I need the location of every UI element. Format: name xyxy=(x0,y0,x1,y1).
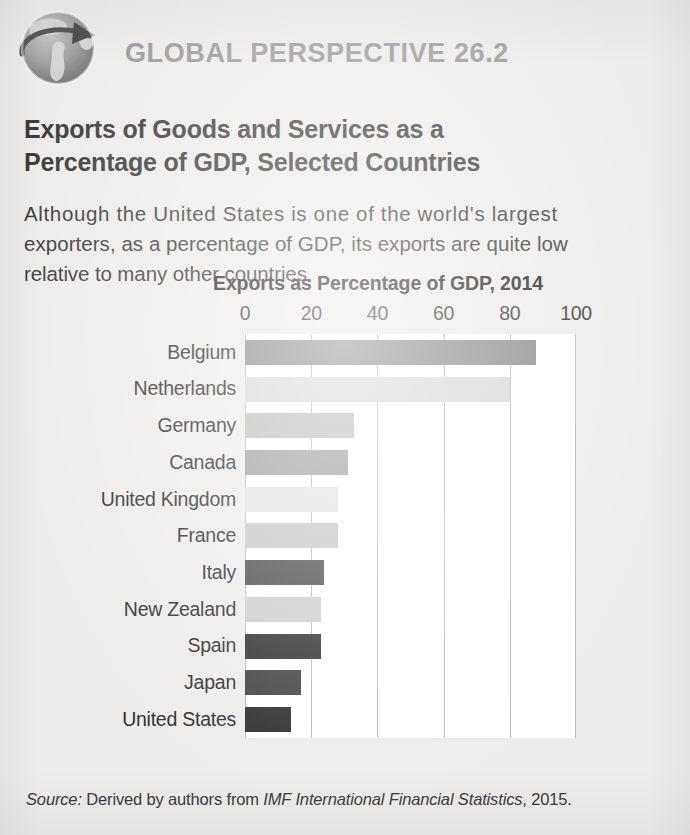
bar-canada xyxy=(245,450,348,475)
bar-label-united-states: United States xyxy=(122,710,236,730)
source-text-after: , 2015. xyxy=(522,790,571,808)
x-tick-80: 80 xyxy=(499,302,520,325)
chart-row: United Kingdom xyxy=(245,481,576,518)
bar-france xyxy=(245,523,338,548)
bar-label-new-zealand: New Zealand xyxy=(124,600,236,620)
x-tick-60: 60 xyxy=(433,302,454,325)
bar-label-spain: Spain xyxy=(187,636,236,656)
bar-japan xyxy=(245,670,301,695)
source-note: Source: Derived by authors from IMF Inte… xyxy=(26,790,666,809)
chart-row: New Zealand xyxy=(245,591,576,628)
chart-row: Netherlands xyxy=(245,371,576,408)
chart-title: Exports as Percentage of GDP, 2014 xyxy=(0,272,690,295)
figure-header: GLOBAL PERSPECTIVE 26.2 xyxy=(0,0,690,92)
bar-label-japan: Japan xyxy=(184,673,236,693)
chart-row: Canada xyxy=(245,444,576,481)
page-title: Exports of Goods and Services as a Perce… xyxy=(24,113,664,180)
intro-line-2: exporters, as a percentage of GDP, its e… xyxy=(24,229,660,259)
chart-row: France xyxy=(245,518,576,555)
bar-label-france: France xyxy=(177,526,236,546)
bar-label-belgium: Belgium xyxy=(167,343,236,363)
bar-germany xyxy=(245,413,354,438)
bar-label-italy: Italy xyxy=(201,563,236,583)
x-tick-0: 0 xyxy=(240,302,251,325)
x-tick-40: 40 xyxy=(367,302,388,325)
global-perspective-figure: GLOBAL PERSPECTIVE 26.2 Exports of Goods… xyxy=(0,0,690,835)
bar-spain xyxy=(245,634,321,659)
bar-united-kingdom xyxy=(245,487,338,512)
intro-line-1: Although the United States is one of the… xyxy=(24,199,660,229)
page-title-line2: Percentage of GDP, Selected Countries xyxy=(24,146,664,179)
chart-row: United States xyxy=(245,701,576,738)
bar-belgium xyxy=(245,340,536,365)
chart-row: Japan xyxy=(245,665,576,702)
chart-row: Germany xyxy=(245,407,576,444)
x-tick-100: 100 xyxy=(560,302,592,325)
chart-row: Belgium xyxy=(245,334,576,371)
source-text-before: Derived by authors from xyxy=(82,790,264,808)
chart-row: Spain xyxy=(245,628,576,665)
chart-row: Italy xyxy=(245,554,576,591)
bar-new-zealand xyxy=(245,597,321,622)
bar-label-netherlands: Netherlands xyxy=(134,379,236,399)
source-label: Source: xyxy=(26,790,82,808)
x-axis-ticks: 020406080100 xyxy=(245,302,576,328)
chart-bars: BelgiumNetherlandsGermanyCanadaUnited Ki… xyxy=(245,334,576,738)
bar-label-canada: Canada xyxy=(169,453,236,473)
bar-label-united-kingdom: United Kingdom xyxy=(101,490,236,510)
globe-icon xyxy=(12,4,104,96)
bar-netherlands xyxy=(245,377,510,402)
chart-plot-wrapper: 020406080100 BelgiumNetherlandsGermanyCa… xyxy=(95,302,595,752)
bar-label-germany: Germany xyxy=(158,416,236,436)
x-tick-20: 20 xyxy=(301,302,322,325)
page-title-line1: Exports of Goods and Services as a xyxy=(24,115,444,143)
source-work-title: IMF International Financial Statistics xyxy=(263,790,522,808)
bar-chart: Exports as Percentage of GDP, 2014 02040… xyxy=(0,272,690,772)
bar-united-states xyxy=(245,707,291,732)
bar-italy xyxy=(245,560,324,585)
kicker-label: GLOBAL PERSPECTIVE 26.2 xyxy=(125,38,509,69)
chart-plot-area: BelgiumNetherlandsGermanyCanadaUnited Ki… xyxy=(245,334,576,738)
